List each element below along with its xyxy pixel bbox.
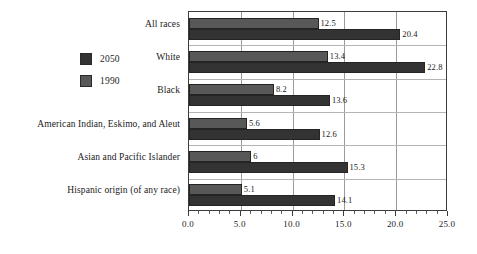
x-tick-minor <box>198 211 199 214</box>
bar-2050 <box>189 162 348 173</box>
x-tick-minor <box>323 211 324 214</box>
x-tick-minor <box>209 211 210 214</box>
x-tick-major <box>343 211 344 216</box>
category-label: White <box>156 52 180 63</box>
x-tick-major <box>447 211 448 216</box>
bar-value-label: 22.8 <box>427 63 442 72</box>
x-tick-minor <box>250 211 251 214</box>
x-tick-minor <box>426 211 427 214</box>
bar-1990 <box>189 151 251 162</box>
category-label: Black <box>157 85 180 96</box>
x-tick-minor <box>333 211 334 214</box>
x-tick-label: 15.0 <box>335 219 352 229</box>
bar-1990 <box>189 84 274 95</box>
bar-value-label: 13.6 <box>332 96 347 105</box>
x-tick-minor <box>354 211 355 214</box>
bar-2050 <box>189 29 400 40</box>
category-label: American Indian, Eskimo, and Aleut <box>37 119 180 130</box>
x-tick-minor <box>312 211 313 214</box>
x-tick-minor <box>281 211 282 214</box>
bar-2050 <box>189 195 335 206</box>
x-tick-label: 25.0 <box>439 219 456 229</box>
bar-chart: 2050 1990 All racesWhiteBlackAmerican In… <box>0 0 477 254</box>
group-separator <box>189 79 446 80</box>
x-tick-major <box>292 211 293 216</box>
category-label: Asian and Pacific Islander <box>77 152 180 163</box>
bar-2050 <box>189 95 330 106</box>
x-tick-minor <box>229 211 230 214</box>
bar-value-label: 13.4 <box>330 52 345 61</box>
gridline <box>396 12 397 210</box>
x-tick-label: 0.0 <box>182 219 194 229</box>
x-tick-minor <box>374 211 375 214</box>
bar-2050 <box>189 129 320 140</box>
bar-value-label: 15.3 <box>350 163 365 172</box>
x-tick-label: 10.0 <box>283 219 300 229</box>
x-tick-label: 5.0 <box>234 219 246 229</box>
x-tick-major <box>240 211 241 216</box>
bar-1990 <box>189 118 247 129</box>
plot-area: 12.520.413.422.88.213.65.612.6615.35.114… <box>188 11 447 211</box>
bar-value-label: 6 <box>253 152 257 161</box>
bar-value-label: 5.6 <box>249 119 260 128</box>
bar-value-label: 12.5 <box>321 19 336 28</box>
x-tick-minor <box>406 211 407 214</box>
bar-value-label: 20.4 <box>402 30 417 39</box>
x-tick-minor <box>364 211 365 214</box>
x-tick-label: 20.0 <box>387 219 404 229</box>
gridline <box>241 12 242 210</box>
x-axis-labels: 0.05.010.015.020.025.0 <box>188 219 447 233</box>
bar-1990 <box>189 184 242 195</box>
bar-value-label: 14.1 <box>337 196 352 205</box>
x-tick-minor <box>271 211 272 214</box>
x-axis-ticks <box>188 211 447 217</box>
bar-value-label: 5.1 <box>244 185 255 194</box>
x-tick-minor <box>302 211 303 214</box>
bar-1990 <box>189 51 328 62</box>
bar-1990 <box>189 18 319 29</box>
group-separator <box>189 45 446 46</box>
x-tick-major <box>188 211 189 216</box>
x-tick-minor <box>437 211 438 214</box>
bar-2050 <box>189 62 425 73</box>
gridline <box>293 12 294 210</box>
x-tick-minor <box>219 211 220 214</box>
group-separator <box>189 112 446 113</box>
group-separator <box>189 179 446 180</box>
category-label: Hispanic origin (of any race) <box>67 185 180 196</box>
group-separator <box>189 145 446 146</box>
x-tick-minor <box>416 211 417 214</box>
x-tick-minor <box>385 211 386 214</box>
x-tick-major <box>395 211 396 216</box>
bar-value-label: 8.2 <box>276 85 287 94</box>
gridline <box>344 12 345 210</box>
y-axis-category-labels: All racesWhiteBlackAmerican Indian, Eski… <box>0 8 184 211</box>
bar-value-label: 12.6 <box>322 130 337 139</box>
category-label: All races <box>145 19 180 30</box>
x-tick-minor <box>261 211 262 214</box>
